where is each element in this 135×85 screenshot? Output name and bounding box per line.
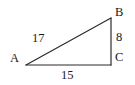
vertex-label-a: A: [10, 52, 19, 65]
side-length-label-vertical-leg: 8: [116, 31, 122, 44]
triangle-diagram-canvas: A B C 17 8 15: [0, 0, 135, 85]
side-length-label-horizontal-leg: 15: [61, 69, 74, 82]
vertex-label-c: C: [115, 51, 123, 64]
side-length-label-hypotenuse: 17: [32, 32, 45, 45]
vertex-label-b: B: [115, 6, 123, 19]
